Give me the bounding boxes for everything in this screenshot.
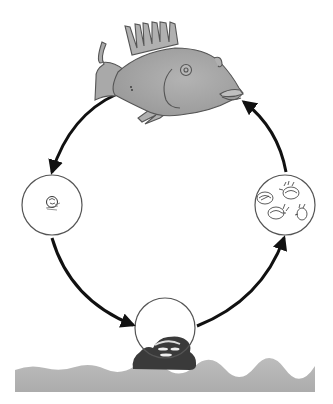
stage-larvae [255, 175, 315, 235]
arrow-adult-to-egg [52, 94, 117, 172]
arrow-larvae-to-adult [244, 102, 286, 172]
life-cycle-diagram: fish [0, 0, 333, 404]
fish-icon [95, 22, 243, 124]
stage-adult [95, 22, 243, 124]
diagram-canvas [0, 0, 333, 404]
nest-rock-icon [133, 336, 196, 370]
arrow-egg-to-nest [52, 238, 133, 325]
cycle-arrows [52, 94, 286, 326]
stage-egg [22, 175, 82, 235]
arrow-nest-to-larvae [197, 238, 284, 326]
